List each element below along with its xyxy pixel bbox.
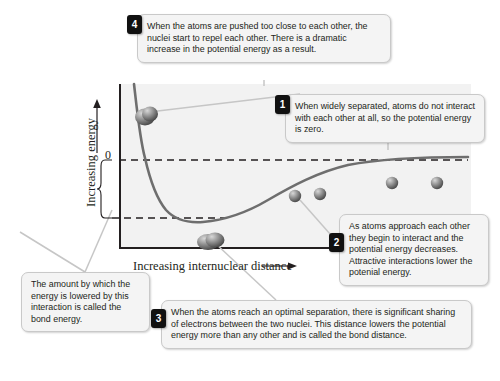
atom-marker-bond-distance [197, 233, 225, 251]
atom-marker-approaching-pair [289, 188, 326, 202]
callout-bond-energy: The amount by which the energy is lowere… [21, 272, 150, 332]
figure-canvas: Increasing energy Increasing internuclea… [0, 0, 500, 381]
callout-3: When the atoms reach an optimal separati… [161, 300, 472, 349]
callout-3-text: When the atoms reach an optimal separati… [171, 307, 463, 342]
y-axis-label: Increasing energy [84, 88, 99, 238]
callout-1: When widely separated, atoms do not inte… [285, 94, 485, 143]
callout-badge-3: 3 [151, 309, 166, 328]
callout-2-text: As atoms approach each other they begin … [349, 221, 480, 279]
callout-4-text: When the atoms are pushed too close to e… [147, 21, 382, 56]
callout-badge-4: 4 [127, 15, 142, 34]
x-axis-label: Increasing internuclear distance [133, 259, 292, 274]
callout-2: As atoms approach each other they begin … [339, 214, 489, 286]
atom-marker-pushed-too-close [135, 107, 158, 126]
callout-4: When the atoms are pushed too close to e… [137, 14, 391, 63]
zero-tick-label: 0 [105, 148, 111, 163]
callout-1-text: When widely separated, atoms do not inte… [295, 101, 476, 136]
y-axis-label-wrap: Increasing energy [80, 100, 102, 250]
callout-badge-2: 2 [329, 233, 344, 252]
callout-bond-energy-text: The amount by which the energy is lowere… [31, 279, 141, 325]
atom-marker-widely-separated-pair [386, 177, 443, 189]
callout-badge-1: 1 [275, 95, 290, 114]
